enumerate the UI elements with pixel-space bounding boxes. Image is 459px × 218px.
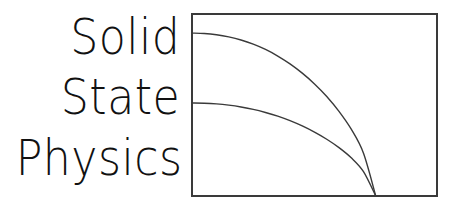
curve-upper-branch bbox=[192, 33, 376, 196]
wordmark-line-physics: Physics bbox=[15, 125, 184, 191]
plot-svg bbox=[186, 8, 448, 208]
logo-canvas: Solid State Physics bbox=[0, 0, 459, 218]
wordmark: Solid State Physics bbox=[0, 6, 184, 212]
wordmark-line-solid: Solid bbox=[70, 4, 184, 70]
curve-lower-branch bbox=[192, 103, 376, 196]
wordmark-line-state: State bbox=[61, 64, 184, 130]
dispersion-plot bbox=[186, 8, 448, 208]
